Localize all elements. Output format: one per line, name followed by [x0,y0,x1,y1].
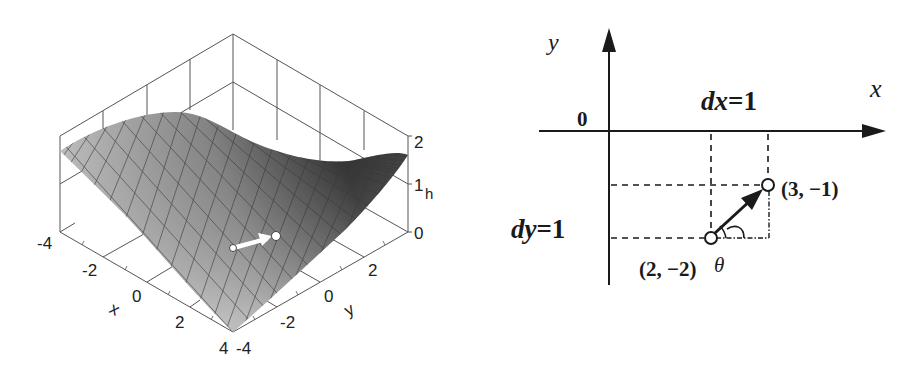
y-axis [602,28,616,285]
start-point-marker [705,232,717,244]
x-tick-label: -4 [37,234,52,253]
angle-theta-label: θ [714,253,724,277]
surface-plot-canvas: -4 -2 0 2 4 x -4 -2 0 2 y 0 1 2 h [0,0,460,373]
x-tick-label: 0 [132,287,141,306]
h-tick-label: 2 [414,133,423,152]
h-tick-label: 1 [414,176,423,195]
surface-plot: -4 -2 0 2 4 x -4 -2 0 2 y 0 1 2 h [0,0,460,373]
vector-diagram-canvas: y x 0 dx=1 dy=1 (3, −1) (2, −2) θ [480,0,922,373]
x-axis-label: x [106,299,123,320]
arrow-end-point [272,232,281,241]
y-tick-label: -2 [280,313,295,332]
x-axis-arrowhead-icon [862,124,886,138]
dy-label: dy=1 [511,214,565,244]
y-axis-arrowhead-icon [602,28,616,52]
y-tick-label: 0 [324,287,333,306]
x-axis [539,124,886,138]
x-axis-label: x [869,74,882,103]
dx-label: dx=1 [701,86,757,116]
x-tick-label: 4 [219,339,228,358]
h-axis-label: h [425,185,433,202]
y-axis-label: y [341,299,358,320]
start-point-label: (2, −2) [639,257,696,281]
angle-arc-outer [727,226,744,238]
end-point-marker [762,179,774,191]
end-point-label: (3, −1) [781,177,838,201]
dashed-guides [611,134,768,238]
x-tick-label: 2 [175,313,184,332]
arrow-start-point [230,245,237,252]
origin-label: 0 [577,107,588,131]
y-tick-label: -4 [236,339,251,358]
y-tick-label: 2 [368,261,377,280]
vector-diagram: y x 0 dx=1 dy=1 (3, −1) (2, −2) θ [480,0,922,373]
h-tick-label: 0 [414,224,423,243]
vector-arrow [705,179,774,244]
y-axis-label: y [546,29,559,55]
x-tick-label: -2 [82,261,97,280]
